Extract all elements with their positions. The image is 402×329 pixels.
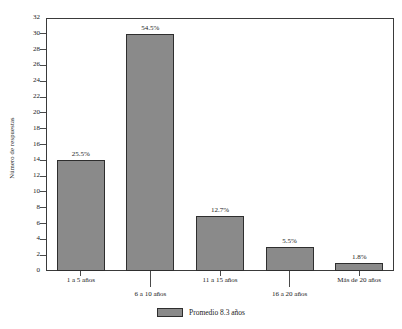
- y-axis-tick-label-text: 18: [14, 125, 40, 132]
- x-axis-tick: [289, 271, 290, 287]
- y-axis-tick: [40, 207, 46, 208]
- y-axis-tick-label: 14: [0, 156, 40, 163]
- x-axis-tick-label: 11 a 15 años: [175, 276, 265, 284]
- y-axis-tick-label: 4: [0, 235, 40, 242]
- y-axis-tick: [40, 239, 46, 240]
- y-axis-tick: [40, 255, 46, 256]
- y-axis-tick-label-text: 2: [14, 251, 40, 258]
- bar-chart-figure: Número de respuestas 0246810121416182022…: [0, 0, 402, 329]
- x-axis-tick-label: Más de 20 años: [314, 276, 402, 284]
- legend-label-promedio: Promedio 8.3 años: [189, 308, 245, 317]
- y-axis-tick-label-text: 20: [14, 109, 40, 116]
- y-axis-tick-label: 12: [0, 172, 40, 179]
- bar-value-label: 12.7%: [190, 206, 250, 214]
- y-axis-tick: [40, 33, 46, 34]
- y-axis-tick-label-text: 10: [14, 188, 40, 195]
- chart-title-fragment: [0, 0, 402, 7]
- y-axis-tick-label: 8: [0, 204, 40, 211]
- x-axis-tick-label: 1 a 5 años: [36, 276, 126, 284]
- y-axis-tick-label-text: 22: [14, 93, 40, 100]
- y-axis-tick-label: 10: [0, 188, 40, 195]
- y-axis-tick-label-text: 6: [14, 220, 40, 227]
- bar-value-label: 5.5%: [260, 237, 320, 245]
- bar-value-label: 1.8%: [329, 253, 389, 261]
- y-axis-tick: [40, 191, 46, 192]
- y-axis-tick-label: 0: [0, 267, 40, 274]
- y-axis-tick-label: 6: [0, 220, 40, 227]
- y-axis-tick: [40, 223, 46, 224]
- y-axis-tick-label: 22: [0, 93, 40, 100]
- bar: [57, 160, 105, 271]
- y-axis-tick: [40, 81, 46, 82]
- y-axis-tick-label-text: 14: [14, 156, 40, 163]
- y-axis-tick-label: 2: [0, 251, 40, 258]
- y-axis-tick: [40, 144, 46, 145]
- y-axis-tick-label-text: 32: [14, 14, 40, 21]
- x-axis-tick-label: 16 a 20 años: [245, 290, 335, 298]
- bar-value-label: 25.5%: [51, 150, 111, 158]
- y-axis-tick-label: 20: [0, 109, 40, 116]
- bar-value-label: 54.5%: [120, 24, 180, 32]
- y-axis-tick: [40, 49, 46, 50]
- y-axis-tick-label-text: 30: [14, 30, 40, 37]
- y-axis-tick-label-text: 24: [14, 77, 40, 84]
- y-axis-tick: [40, 176, 46, 177]
- y-axis-tick-label: 32: [0, 14, 40, 21]
- chart-legend: Promedio 8.3 años: [0, 308, 402, 317]
- y-axis-tick-label: 28: [0, 46, 40, 53]
- y-axis-tick-label-text: 16: [14, 141, 40, 148]
- y-axis-tick-label-text: 4: [14, 235, 40, 242]
- y-axis-tick: [40, 128, 46, 129]
- legend-swatch-promedio: [157, 308, 183, 317]
- y-axis-tick-label-text: 26: [14, 61, 40, 68]
- y-axis-tick: [40, 65, 46, 66]
- y-axis-tick-label-text: 8: [14, 204, 40, 211]
- y-axis-tick-label-text: 12: [14, 172, 40, 179]
- y-axis-tick-label: 24: [0, 77, 40, 84]
- y-axis-tick: [40, 112, 46, 113]
- x-axis-tick: [150, 271, 151, 287]
- x-axis-tick-label: 6 a 10 años: [105, 290, 195, 298]
- y-axis-tick-label: 16: [0, 141, 40, 148]
- y-axis-tick-label: 30: [0, 30, 40, 37]
- y-axis-tick: [40, 160, 46, 161]
- bar: [335, 263, 383, 271]
- y-axis-tick-label-text: 28: [14, 46, 40, 53]
- bar: [266, 247, 314, 271]
- bar: [196, 216, 244, 271]
- bar: [126, 34, 174, 271]
- y-axis-tick: [40, 97, 46, 98]
- y-axis-tick-label: 18: [0, 125, 40, 132]
- y-axis-tick-label: 26: [0, 61, 40, 68]
- y-axis-tick-label-text: 0: [14, 267, 40, 274]
